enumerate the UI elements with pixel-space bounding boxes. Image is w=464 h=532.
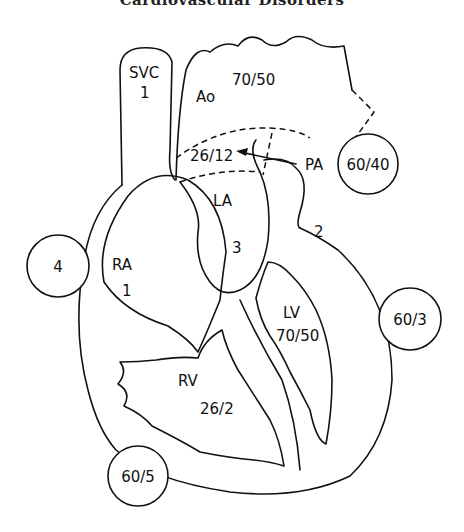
interventricular-septum bbox=[240, 300, 300, 470]
la-appendage bbox=[264, 159, 304, 228]
ra-label: RA bbox=[112, 256, 133, 274]
lv-normal-value: 60/3 bbox=[393, 311, 427, 329]
heart-diagram: SVC 1 Ao 70/50 26/12 PA LA 3 RA 1 LV 70/… bbox=[0, 0, 464, 532]
lv-label: LV bbox=[283, 304, 301, 322]
ao-value: 70/50 bbox=[232, 71, 275, 89]
ra-normal-value: 4 bbox=[53, 258, 63, 276]
la-normal-value: 2 bbox=[314, 223, 324, 241]
svc-label: SVC bbox=[129, 64, 159, 82]
rv-value: 26/2 bbox=[200, 400, 234, 418]
rv-label: RV bbox=[178, 372, 199, 390]
ao-label: Ao bbox=[196, 88, 215, 106]
rv-normal-value: 60/5 bbox=[121, 468, 155, 486]
pa-branch bbox=[263, 133, 272, 175]
lv-value: 70/50 bbox=[276, 327, 319, 345]
pa-value: 26/12 bbox=[190, 147, 233, 165]
la-value: 3 bbox=[232, 239, 242, 257]
pa-label: PA bbox=[305, 156, 324, 174]
pa-normal-value: 60/40 bbox=[346, 156, 389, 174]
pulmonary-artery-lower bbox=[180, 171, 260, 182]
svc-value: 1 bbox=[140, 84, 150, 102]
heart-outer-contour bbox=[79, 185, 392, 494]
ra-value: 1 bbox=[122, 282, 132, 300]
pa-arrowhead bbox=[236, 148, 248, 156]
la-label: LA bbox=[213, 192, 233, 210]
